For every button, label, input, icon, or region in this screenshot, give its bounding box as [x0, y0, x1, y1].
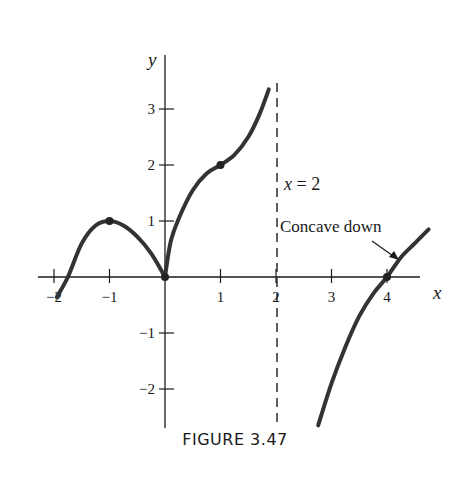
- y-tick-label: −1: [139, 325, 155, 341]
- annotations: x = 2Concave down: [280, 174, 399, 260]
- y-axis-label: y: [146, 49, 157, 70]
- x-tick-label: 1: [217, 289, 225, 305]
- graph-figure: −2−11234−2−1123xy x = 2Concave down: [0, 0, 470, 487]
- arrow-head-icon: [389, 251, 399, 260]
- y-tick-label: 3: [148, 101, 156, 117]
- x-axis-label: x: [432, 282, 442, 303]
- x-tick-label: 2: [272, 289, 280, 305]
- marked-point: [161, 273, 169, 281]
- curve-branch-1: [57, 221, 165, 297]
- y-tick-label: −2: [139, 381, 155, 397]
- figure-caption: FIGURE 3.47: [0, 430, 470, 449]
- curves: [57, 89, 429, 425]
- y-tick-label: 1: [148, 213, 156, 229]
- marked-point: [217, 161, 225, 169]
- concave-down-label: Concave down: [280, 217, 382, 236]
- curve-branch-2: [165, 89, 269, 277]
- x-tick-label: −1: [102, 289, 118, 305]
- x-tick-label: 4: [383, 289, 391, 305]
- marked-point: [106, 217, 114, 225]
- marked-point: [383, 273, 391, 281]
- axes: −2−11234−2−1123xy: [38, 49, 442, 428]
- y-tick-label: 2: [148, 157, 156, 173]
- asymptote-label: x = 2: [283, 174, 320, 194]
- curve-branch-3: [318, 229, 428, 425]
- x-tick-label: 3: [328, 289, 336, 305]
